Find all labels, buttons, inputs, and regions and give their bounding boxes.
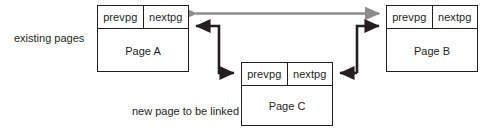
nextpg-cell-a: nextpg [144, 6, 189, 28]
arrow-link-c-next-to-b [357, 26, 379, 73]
page-label-c: Page C [242, 86, 332, 126]
pointer-row-a: prevpg nextpg [98, 6, 188, 29]
caption-new-page: new page to be linked [132, 105, 239, 117]
caption-existing-pages: existing pages [14, 32, 84, 44]
prevpg-cell-c: prevpg [242, 63, 288, 85]
pointer-row-c: prevpg nextpg [242, 63, 332, 86]
page-box-b: prevpg nextpg Page B [386, 5, 478, 72]
arrow-link-c-prev-to-a [196, 26, 219, 45]
page-link-diagram: existing pages new page to be linked pre… [0, 0, 498, 133]
page-box-a: prevpg nextpg Page A [97, 5, 189, 72]
pointer-row-b: prevpg nextpg [387, 6, 477, 29]
prevpg-cell-b: prevpg [387, 6, 433, 28]
arrow-link-a-next-to-c [219, 45, 234, 73]
page-label-a: Page A [98, 29, 188, 72]
prevpg-cell-a: prevpg [98, 6, 144, 28]
nextpg-cell-b: nextpg [433, 6, 478, 28]
page-box-c: prevpg nextpg Page C [241, 62, 333, 126]
page-label-b: Page B [387, 29, 477, 72]
nextpg-cell-c: nextpg [288, 63, 333, 85]
